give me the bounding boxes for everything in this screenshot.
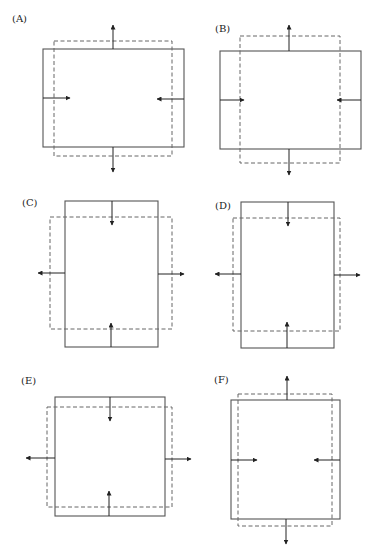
panel-label: (E)	[21, 375, 36, 386]
panel-d: (D)	[215, 200, 360, 348]
deformation-diagram: (A)(B)(C)(D)(E)(F)	[0, 0, 377, 556]
panel-a: (A)	[12, 13, 184, 172]
panel-label: (B)	[215, 23, 230, 34]
panel-e: (E)	[21, 375, 191, 516]
panel-label: (D)	[215, 200, 231, 211]
deformed-rectangle-dashed	[240, 36, 340, 163]
panels-group: (A)(B)(C)(D)(E)(F)	[12, 13, 361, 544]
panel-b: (B)	[215, 23, 361, 175]
deformed-rectangle-dashed	[233, 218, 340, 331]
panel-label: (A)	[12, 13, 27, 24]
panel-f: (F)	[214, 374, 340, 544]
deformed-rectangle-dashed	[54, 41, 172, 156]
panel-label: (C)	[22, 197, 38, 208]
panel-label: (F)	[214, 374, 229, 385]
panel-c: (C)	[22, 197, 184, 347]
deformed-rectangle-dashed	[50, 217, 172, 329]
